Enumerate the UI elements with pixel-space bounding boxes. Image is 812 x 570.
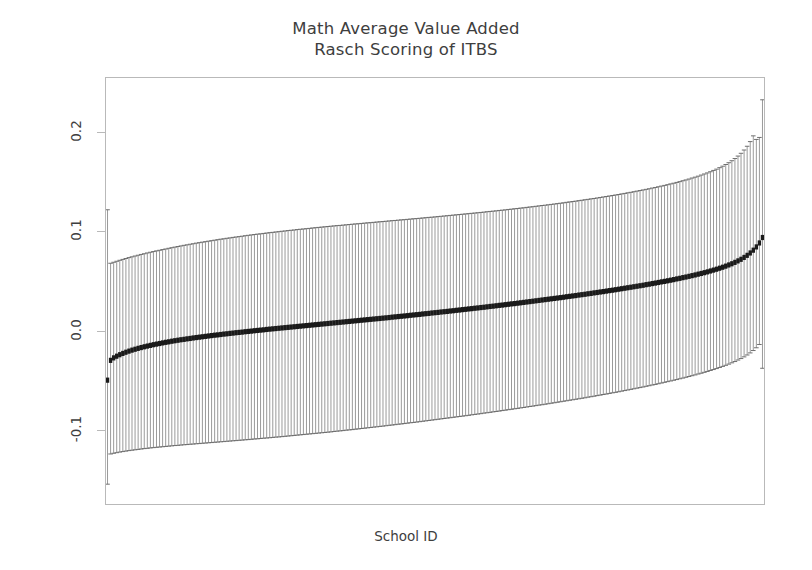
y-axis-tick-label: 0.0 xyxy=(68,310,84,350)
point-estimate-marker xyxy=(387,315,390,320)
point-estimate-marker xyxy=(259,328,262,333)
point-estimate-marker xyxy=(250,329,253,334)
point-estimate-marker xyxy=(283,325,286,330)
point-estimate-marker xyxy=(562,295,565,300)
point-estimate-marker xyxy=(507,302,510,307)
point-estimate-marker xyxy=(317,322,320,327)
point-estimate-marker xyxy=(700,271,703,276)
point-estimate-marker xyxy=(635,284,638,289)
point-estimate-marker xyxy=(360,318,363,323)
point-estimate-marker xyxy=(693,272,696,277)
point-estimate-marker xyxy=(614,287,617,292)
point-estimate-marker xyxy=(293,324,296,329)
point-estimate-marker xyxy=(730,261,733,266)
point-estimate-marker xyxy=(568,294,571,299)
point-estimate-marker xyxy=(697,272,700,277)
point-estimate-marker xyxy=(204,334,207,339)
point-estimate-marker xyxy=(641,283,644,288)
point-estimate-marker xyxy=(681,275,684,280)
point-estimate-marker xyxy=(237,330,240,335)
point-estimate-marker xyxy=(378,316,381,321)
point-estimate-marker xyxy=(400,314,403,319)
point-estimate-marker xyxy=(216,332,219,337)
point-estimate-marker xyxy=(173,338,176,343)
point-estimate-marker xyxy=(467,306,470,311)
point-estimate-marker xyxy=(739,257,742,262)
point-estimate-marker xyxy=(335,320,338,325)
point-estimate-marker xyxy=(170,339,173,344)
point-estimate-marker xyxy=(663,279,666,284)
point-estimate-marker xyxy=(146,343,149,348)
point-estimate-marker xyxy=(446,309,449,314)
point-estimate-marker xyxy=(724,264,727,269)
point-estimate-marker xyxy=(501,302,504,307)
point-estimate-marker xyxy=(498,303,501,308)
chart-canvas xyxy=(106,78,764,504)
point-estimate-marker xyxy=(188,336,191,341)
point-estimate-marker xyxy=(179,337,182,342)
point-estimate-marker xyxy=(690,273,693,278)
point-estimate-marker xyxy=(314,322,317,327)
point-estimate-marker xyxy=(620,286,623,291)
point-estimate-marker xyxy=(651,281,654,286)
point-estimate-marker xyxy=(231,331,234,336)
point-estimate-marker xyxy=(556,295,559,300)
point-estimate-marker xyxy=(384,315,387,320)
point-estimate-marker xyxy=(452,308,455,313)
point-estimate-marker xyxy=(262,327,265,332)
point-estimate-marker xyxy=(228,331,231,336)
point-estimate-marker xyxy=(442,309,445,314)
point-estimate-marker xyxy=(143,344,146,349)
point-estimate-marker xyxy=(366,317,369,322)
point-estimate-marker xyxy=(449,308,452,313)
point-estimate-marker xyxy=(657,280,660,285)
point-estimate-marker xyxy=(550,296,553,301)
y-axis-tick-label: 0.2 xyxy=(68,111,84,151)
point-estimate-marker xyxy=(605,289,608,294)
x-axis-title: School ID xyxy=(0,528,812,544)
point-estimate-marker xyxy=(608,288,611,293)
chart-title-line-2: Rasch Scoring of ITBS xyxy=(0,39,812,60)
point-estimate-marker xyxy=(525,299,528,304)
point-estimate-marker xyxy=(207,333,210,338)
point-estimate-marker xyxy=(397,314,400,319)
point-estimate-marker xyxy=(510,301,513,306)
point-estimate-marker xyxy=(133,347,136,352)
chart-title: Math Average Value Added Rasch Scoring o… xyxy=(0,18,812,60)
point-estimate-marker xyxy=(733,260,736,265)
point-estimate-marker xyxy=(244,329,247,334)
point-estimate-marker xyxy=(473,306,476,311)
point-estimate-marker xyxy=(455,308,458,313)
point-estimate-marker xyxy=(268,327,271,332)
point-estimate-marker xyxy=(195,335,198,340)
point-estimate-marker xyxy=(537,298,540,303)
point-estimate-marker xyxy=(222,332,225,337)
point-estimate-marker xyxy=(357,318,360,323)
point-estimate-marker xyxy=(296,324,299,329)
point-estimate-marker xyxy=(305,323,308,328)
point-estimate-marker xyxy=(491,304,494,309)
point-estimate-marker xyxy=(219,332,222,337)
point-estimate-marker xyxy=(574,293,577,298)
point-estimate-marker xyxy=(302,323,305,328)
errorbar-layer xyxy=(106,100,764,484)
point-estimate-marker xyxy=(761,235,764,240)
point-estimate-marker xyxy=(602,289,605,294)
point-estimate-marker xyxy=(345,319,348,324)
y-axis-tick-mark xyxy=(97,132,105,133)
y-axis-tick-mark xyxy=(97,331,105,332)
point-estimate-marker xyxy=(666,278,669,283)
point-estimate-marker xyxy=(721,265,724,270)
point-estimate-marker xyxy=(727,262,730,267)
point-estimate-marker xyxy=(495,303,498,308)
point-estimate-marker xyxy=(289,324,292,329)
plot-area xyxy=(105,77,765,505)
point-estimate-marker xyxy=(354,318,357,323)
point-estimate-marker xyxy=(559,295,562,300)
point-estimate-marker xyxy=(210,333,213,338)
point-estimate-marker xyxy=(470,306,473,311)
point-estimate-marker xyxy=(736,258,739,263)
point-estimate-marker xyxy=(528,299,531,304)
point-estimate-marker xyxy=(745,253,748,258)
point-estimate-marker xyxy=(130,348,133,353)
